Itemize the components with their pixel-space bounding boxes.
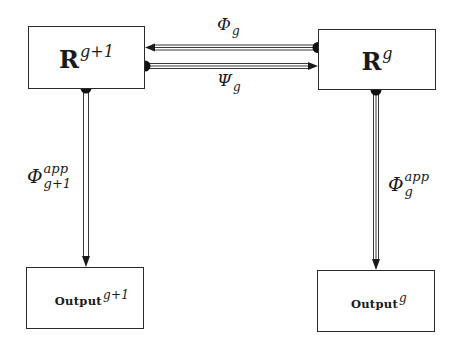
- node-superscript: g: [382, 44, 392, 63]
- edge-superscript: app: [405, 170, 429, 183]
- node-superscript: g+1: [80, 42, 114, 61]
- edge-label-phi-app-g-plus-1: Φappg+1: [27, 162, 71, 190]
- node-base: R: [59, 45, 79, 74]
- edge-script-stack: appg+1: [44, 162, 72, 190]
- node-superscript: g: [399, 291, 407, 305]
- edge-symbol: Φ: [217, 14, 231, 34]
- node-output-g-plus-1-label: Outputg+1: [55, 288, 130, 308]
- node-r-g: Rg: [318, 29, 436, 90]
- arrowhead-phi-app-next: [82, 256, 90, 267]
- arrow-phi-g: [145, 42, 324, 53]
- node-output-g-label: Outputg: [351, 291, 407, 311]
- edge-superscript: app: [44, 162, 72, 175]
- edge-symbol: Φ: [388, 175, 404, 194]
- node-r-g-plus-1: Rg+1: [28, 26, 145, 89]
- node-output-g-plus-1: Outputg+1: [26, 267, 144, 329]
- node-r-g-plus-1-label: Rg+1: [59, 44, 114, 72]
- arrow-phi-app-cur: [371, 85, 382, 271]
- node-base: Output: [351, 297, 398, 311]
- node-superscript: g+1: [103, 288, 129, 302]
- arrowhead-phi-g: [145, 44, 155, 52]
- arrowhead-phi-app-cur: [372, 259, 380, 270]
- node-base: R: [361, 47, 381, 76]
- edge-label-phi-g: Φg: [217, 16, 240, 37]
- edge-symbol: Φ: [27, 167, 43, 186]
- edge-subscript: g: [233, 80, 241, 94]
- node-base: Output: [55, 294, 102, 308]
- edge-subscript: g: [405, 185, 429, 198]
- arrow-phi-app-next: [81, 83, 92, 268]
- edge-subscript: g: [232, 24, 240, 38]
- edge-label-psi-g: Ψg: [217, 72, 241, 93]
- edge-label-phi-app-g: Φappg: [388, 170, 429, 198]
- arrowhead-psi-g: [308, 62, 318, 70]
- node-output-g: Outputg: [317, 270, 435, 332]
- edge-subscript: g+1: [44, 177, 72, 190]
- edge-script-stack: appg: [405, 170, 429, 198]
- edge-symbol: Ψ: [217, 70, 232, 90]
- node-r-g-label: Rg: [361, 46, 392, 74]
